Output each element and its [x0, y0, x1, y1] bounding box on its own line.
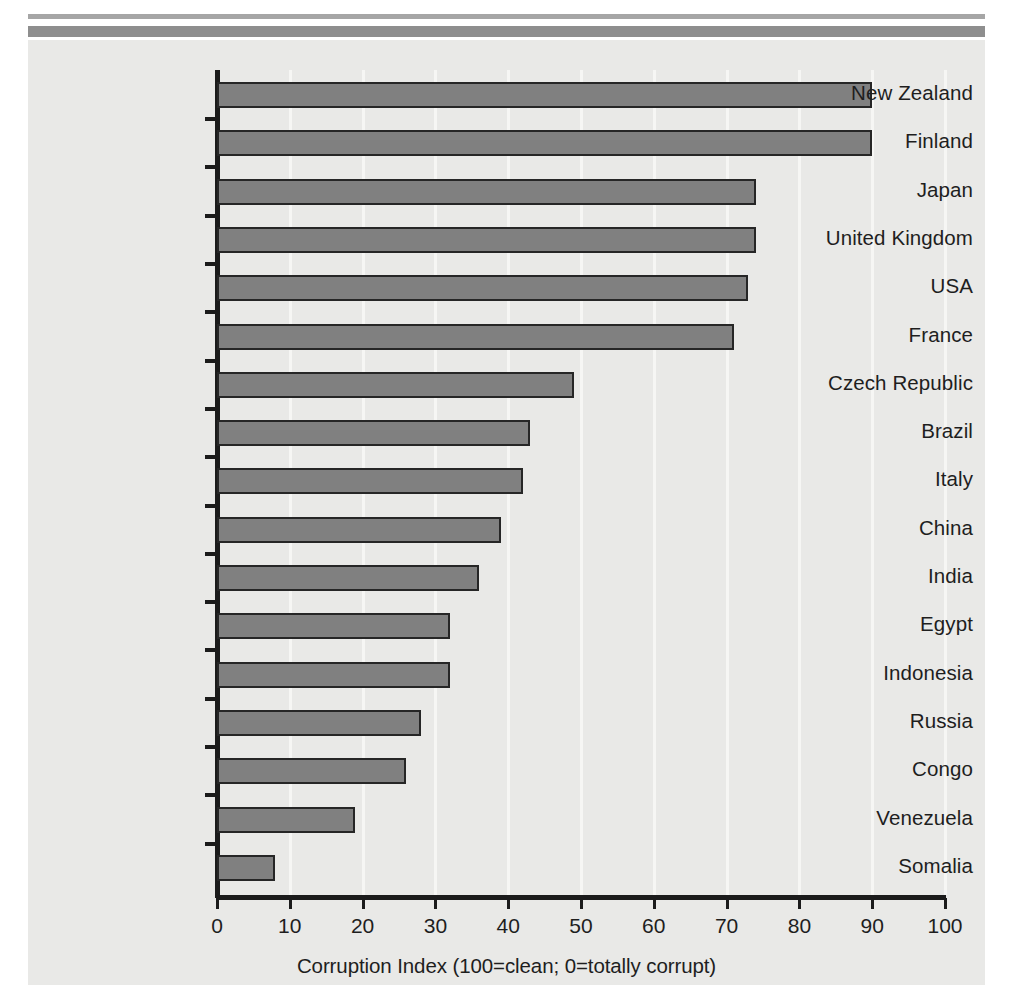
y-tick-label-indonesia: Indonesia	[805, 661, 985, 685]
y-tick-8	[205, 504, 216, 508]
x-tick-label-30: 30	[400, 914, 470, 938]
y-tick-label-somalia: Somalia	[805, 854, 985, 878]
x-tick-50	[580, 898, 583, 909]
bar-usa	[217, 275, 748, 301]
scan-artifact-bars	[0, 0, 1011, 42]
y-tick-13	[205, 745, 216, 749]
y-tick-label-japan: Japan	[805, 178, 985, 202]
y-tick-label-russia: Russia	[805, 709, 985, 733]
y-tick-2	[205, 214, 216, 218]
x-tick-label-80: 80	[764, 914, 834, 938]
y-tick-15	[205, 842, 216, 846]
gridline-80	[798, 70, 801, 895]
bar-somalia	[217, 855, 275, 881]
bar-indonesia	[217, 662, 450, 688]
x-tick-label-20: 20	[328, 914, 398, 938]
x-tick-label-60: 60	[619, 914, 689, 938]
bar-egypt	[217, 613, 450, 639]
y-tick-label-china: China	[805, 516, 985, 540]
y-tick-3	[205, 262, 216, 266]
y-tick-11	[205, 648, 216, 652]
bar-france	[217, 324, 734, 350]
x-tick-label-10: 10	[255, 914, 325, 938]
y-tick-label-united-kingdom: United Kingdom	[805, 226, 985, 250]
x-tick-label-90: 90	[837, 914, 907, 938]
bar-venezuela	[217, 807, 355, 833]
chart-figure: New ZealandFinlandJapanUnited KingdomUSA…	[28, 40, 985, 985]
plot-area: New ZealandFinlandJapanUnited KingdomUSA…	[28, 40, 985, 985]
x-tick-label-70: 70	[692, 914, 762, 938]
x-tick-70	[726, 898, 729, 909]
y-tick-label-usa: USA	[805, 274, 985, 298]
bar-brazil	[217, 420, 530, 446]
x-tick-100	[944, 898, 947, 909]
y-tick-label-india: India	[805, 564, 985, 588]
x-tick-30	[434, 898, 437, 909]
y-tick-label-new-zealand: New Zealand	[805, 81, 985, 105]
x-tick-label-50: 50	[546, 914, 616, 938]
bar-italy	[217, 468, 523, 494]
scan-rule-thin	[28, 14, 985, 19]
x-tick-90	[871, 898, 874, 909]
bar-finland	[217, 130, 872, 156]
x-tick-80	[798, 898, 801, 909]
x-axis-title: Corruption Index (100=clean; 0=totally c…	[28, 954, 985, 978]
y-tick-4	[205, 310, 216, 314]
y-tick-label-venezuela: Venezuela	[805, 806, 985, 830]
bar-china	[217, 517, 501, 543]
y-tick-label-egypt: Egypt	[805, 612, 985, 636]
y-tick-12	[205, 697, 216, 701]
y-tick-label-france: France	[805, 323, 985, 347]
y-tick-7	[205, 455, 216, 459]
bar-united-kingdom	[217, 227, 756, 253]
y-tick-1	[205, 165, 216, 169]
x-tick-label-100: 100	[910, 914, 980, 938]
x-tick-label-40: 40	[473, 914, 543, 938]
bar-india	[217, 565, 479, 591]
bar-czech-republic	[217, 372, 574, 398]
y-tick-0	[205, 117, 216, 121]
y-tick-label-congo: Congo	[805, 757, 985, 781]
x-tick-0	[216, 898, 219, 909]
y-tick-label-italy: Italy	[805, 467, 985, 491]
bar-russia	[217, 710, 421, 736]
x-tick-10	[289, 898, 292, 909]
y-tick-label-brazil: Brazil	[805, 419, 985, 443]
bar-japan	[217, 179, 756, 205]
bar-new-zealand	[217, 82, 872, 108]
y-tick-label-czech-republic: Czech Republic	[805, 371, 985, 395]
x-tick-20	[362, 898, 365, 909]
x-tick-label-0: 0	[182, 914, 252, 938]
x-tick-60	[653, 898, 656, 909]
y-tick-10	[205, 600, 216, 604]
y-tick-label-finland: Finland	[805, 129, 985, 153]
y-tick-9	[205, 552, 216, 556]
y-tick-14	[205, 793, 216, 797]
bar-congo	[217, 758, 406, 784]
y-tick-5	[205, 359, 216, 363]
y-tick-6	[205, 407, 216, 411]
scan-rule-thick	[28, 26, 985, 37]
x-tick-40	[507, 898, 510, 909]
